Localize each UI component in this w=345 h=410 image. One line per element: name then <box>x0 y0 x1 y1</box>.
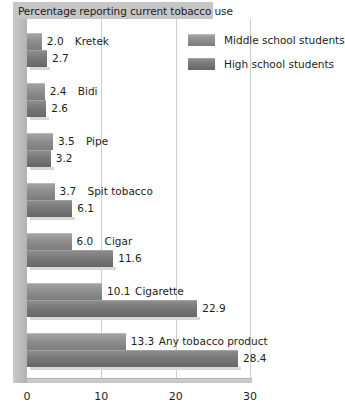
x-tick-label: 0 <box>24 390 31 403</box>
category-label: Kretek <box>75 35 109 47</box>
bar-value-label: 2.4 <box>50 85 67 97</box>
bar-high-school <box>27 200 72 217</box>
bar-middle-school <box>27 233 72 250</box>
bar-row-middle-school: 3.7Spit tobacco <box>27 183 252 200</box>
bar-high-school <box>27 300 197 317</box>
bar-row-high-school: 3.2 <box>27 150 252 167</box>
bar-row-middle-school: 13.3Any tobacco product <box>27 333 252 350</box>
legend-swatch-icon-high-school <box>188 58 215 70</box>
bar-value-label: 3.5 <box>58 135 75 147</box>
x-tick-label: 10 <box>94 390 108 403</box>
bar-value-label: 3.2 <box>56 152 73 164</box>
bar-high-school <box>27 350 238 367</box>
legend-swatch-icon-middle-school <box>188 34 215 46</box>
bar-middle-school <box>27 183 55 200</box>
bar-value-label: 3.7 <box>60 185 77 197</box>
bar-shadow <box>30 67 50 70</box>
bar-shadow <box>30 217 75 220</box>
bar-value-label: 2.0 <box>47 35 64 47</box>
category-label: Cigar <box>105 235 133 247</box>
bar-value-label: 6.1 <box>77 202 94 214</box>
bar-value-label: 2.7 <box>52 52 69 64</box>
bar-group: 13.3Any tobacco product28.4 <box>27 333 252 367</box>
bar-value-label: 28.4 <box>243 352 266 364</box>
category-label: Cigarette <box>135 285 184 297</box>
bar-group: 3.7Spit tobacco6.1 <box>27 183 252 217</box>
bar-group: 3.5Pipe3.2 <box>27 133 252 167</box>
bar-middle-school <box>27 283 102 300</box>
bar-high-school <box>27 50 47 67</box>
x-tick-label: 20 <box>169 390 183 403</box>
x-tick-label: 30 <box>243 390 257 403</box>
bar-middle-school <box>27 83 45 100</box>
bar-row-middle-school: 6.0Cigar <box>27 233 252 250</box>
bar-high-school <box>27 250 113 267</box>
x-axis-baseline <box>27 378 252 379</box>
bar-shadow <box>30 267 116 270</box>
legend-item-middle-school: Middle school students <box>188 31 345 48</box>
chart-left-wall <box>13 8 27 383</box>
bar-value-label: 10.1 <box>107 285 130 297</box>
bar-value-label: 11.6 <box>118 252 141 264</box>
bar-high-school <box>27 150 51 167</box>
bar-row-high-school: 11.6 <box>27 250 252 267</box>
legend-label-middle-school: Middle school students <box>224 34 345 46</box>
bar-middle-school <box>27 133 53 150</box>
bar-row-high-school: 28.4 <box>27 350 252 367</box>
bar-value-label: 2.6 <box>51 102 68 114</box>
bar-value-label: 22.9 <box>202 302 225 314</box>
bar-shadow <box>30 167 54 170</box>
bar-shadow <box>30 317 200 320</box>
bar-shadow <box>30 367 241 370</box>
bar-row-middle-school: 10.1Cigarette <box>27 283 252 300</box>
legend-item-high-school: High school students <box>188 55 345 72</box>
bar-row-middle-school: 3.5Pipe <box>27 133 252 150</box>
chart-title-banner: Percentage reporting current tobacco use <box>13 2 213 19</box>
bar-row-high-school: 6.1 <box>27 200 252 217</box>
chart-legend: Middle school students High school stude… <box>188 31 345 79</box>
bar-high-school <box>27 100 46 117</box>
bar-group: 2.4Bidi2.6 <box>27 83 252 117</box>
bar-value-label: 6.0 <box>77 235 94 247</box>
chart-title: Percentage reporting current tobacco use <box>18 5 233 17</box>
bar-middle-school <box>27 33 42 50</box>
bar-row-high-school: 2.6 <box>27 100 252 117</box>
category-label: Spit tobacco <box>88 185 153 197</box>
bar-row-middle-school: 2.4Bidi <box>27 83 252 100</box>
bar-middle-school <box>27 333 126 350</box>
legend-label-high-school: High school students <box>224 58 334 70</box>
bar-group: 6.0Cigar11.6 <box>27 233 252 267</box>
bar-value-label: 13.3 <box>131 335 154 347</box>
category-label: Pipe <box>86 135 108 147</box>
category-label: Any tobacco product <box>159 335 268 347</box>
bar-group: 10.1Cigarette22.9 <box>27 283 252 317</box>
bar-row-high-school: 22.9 <box>27 300 252 317</box>
bar-shadow <box>30 117 49 120</box>
category-label: Bidi <box>78 85 98 97</box>
